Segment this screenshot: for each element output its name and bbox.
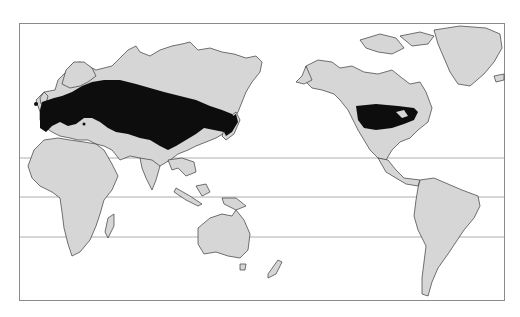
world-map (0, 0, 520, 317)
landmass-iceland (494, 74, 504, 82)
landmass-southeast-asia (168, 158, 196, 176)
range-spot-ireland (34, 102, 38, 106)
range-spot (83, 123, 86, 126)
landmass-tasmania (240, 264, 246, 270)
landmass-greenland (434, 26, 502, 86)
landmass-new-zealand (268, 260, 282, 278)
landmass-central-america (378, 158, 420, 186)
landmass-arctic-islands (360, 34, 404, 54)
landmass-madagascar (105, 214, 114, 238)
landmass-baffin (400, 32, 434, 46)
landmass-australia (198, 210, 250, 258)
landmass-borneo (196, 184, 210, 196)
landmass-new-guinea (222, 198, 246, 210)
